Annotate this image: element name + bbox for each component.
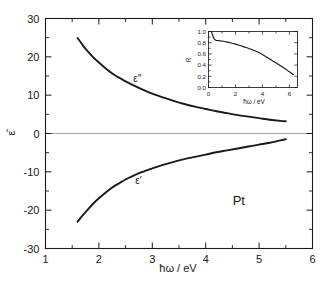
inset-y-tick-label: 0.2 <box>197 73 206 80</box>
inset-x-tick-label: 4 <box>261 90 265 97</box>
inset-y-tick-label: 0.4 <box>197 61 206 68</box>
y-tick-label: -30 <box>24 243 40 255</box>
inset-x-tick-label: 2 <box>234 90 238 97</box>
y-tick-label: 30 <box>27 13 39 25</box>
inset-x-axis-title: ħω / eV <box>243 98 265 105</box>
x-axis-title: ħω / eV <box>159 262 197 274</box>
y-tick-label: -10 <box>24 166 40 178</box>
y-tick-label: -20 <box>24 204 40 216</box>
dielectric-function-plot: 123456 -30-20-100102030 ε″ε′Pt ħω / eV ε… <box>0 0 328 284</box>
x-tick-label: 6 <box>309 253 315 265</box>
y-tick-label: 20 <box>27 51 39 63</box>
figure-container: 123456 -30-20-100102030 ε″ε′Pt ħω / eV ε… <box>0 0 328 284</box>
inset-y-tick-label: 1.0 <box>197 28 206 35</box>
inset-y-tick-label: 0.6 <box>197 50 206 57</box>
inset-x-tick-label: 0 <box>207 90 211 97</box>
inset-y-axis-title: R <box>185 57 192 62</box>
curve-label-annotation: ε′ <box>135 175 141 186</box>
x-tick-label: 3 <box>149 253 155 265</box>
inset-background <box>207 30 299 89</box>
inset-y-tick-label: 0.0 <box>197 84 206 91</box>
y-tick-label: 10 <box>27 89 39 101</box>
sample-label: Pt <box>233 193 246 208</box>
x-tick-label: 2 <box>96 253 102 265</box>
curve-label-annotation: ε″ <box>133 73 141 84</box>
y-tick-label: 0 <box>33 128 39 140</box>
x-tick-label: 5 <box>256 253 262 265</box>
inset-x-tick-label: 6 <box>288 90 292 97</box>
inset-axes: 0246 0.00.20.40.60.81.0 <box>197 28 299 97</box>
inset-y-tick-label: 0.8 <box>197 39 206 46</box>
x-tick-label: 1 <box>42 253 48 265</box>
x-tick-label: 4 <box>203 253 209 265</box>
